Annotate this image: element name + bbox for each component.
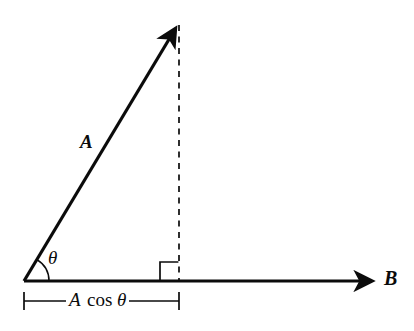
projection-theta-symbol: θ	[117, 289, 126, 310]
angle-theta-label: θ	[48, 248, 57, 267]
vector-projection-figure: A B θ A cos θ	[0, 0, 414, 331]
diagram-canvas	[0, 0, 414, 331]
vector-a-label: A	[80, 132, 93, 151]
projection-cosine-symbol: cos	[87, 289, 112, 310]
vector-b-label: B	[384, 268, 397, 288]
vector-a-line	[24, 29, 176, 282]
right-angle-marker	[160, 262, 178, 281]
projection-length-label: A cos θ	[66, 290, 129, 309]
projection-magnitude-symbol: A	[69, 289, 81, 310]
